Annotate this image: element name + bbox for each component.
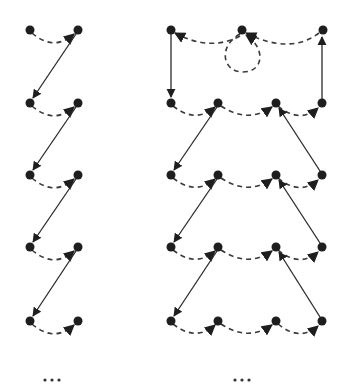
left-ellipsis [43,378,60,381]
left-solid-edge-1 [33,34,76,98]
graph-diagram [0,0,347,391]
right-node [318,317,327,326]
left-node [74,26,83,35]
right-solid-diag-left-1 [174,107,217,170]
right-node [272,317,281,326]
left-node [74,171,83,180]
left-solid-edge-2 [33,107,76,170]
right-node [167,99,176,108]
left-node [26,26,35,35]
left-dashed-edge-row2 [32,106,74,116]
right-node [238,26,247,35]
right-row-3-dashed [173,178,318,188]
right-node [214,99,223,108]
right-node [214,171,223,180]
left-dashed-edge-row4 [32,250,74,260]
left-dashed-edge-row5 [32,324,74,334]
right-node [318,171,327,180]
right-solid-diag-right-2 [279,180,320,243]
right-row-2-dashed [173,106,318,116]
right-solid-diag-right-1 [279,108,320,171]
right-solid-diag-left-2 [174,179,217,242]
right-node [167,317,176,326]
left-solid-edge-3 [33,179,76,242]
left-graph [26,26,83,382]
right-node [272,243,281,252]
diagram-canvas [0,0,347,391]
right-node [318,99,327,108]
left-node [26,99,35,108]
right-node [214,243,223,252]
left-dashed-edge-row1 [32,33,74,43]
left-node [26,171,35,180]
right-node [318,243,327,252]
left-node [26,317,35,326]
right-node [272,171,281,180]
right-node [272,99,281,108]
right-solid-diag-right-3 [279,252,320,317]
left-node [74,243,83,252]
right-ellipsis [233,378,250,381]
left-node [74,317,83,326]
right-node [214,317,223,326]
right-row-4-dashed [173,250,318,260]
right-top-dashed-to-middle [246,33,319,44]
right-graph [167,26,328,382]
right-node [167,243,176,252]
left-node [26,243,35,252]
right-node [319,26,328,35]
left-dashed-edge-row3 [32,178,74,188]
left-node [74,99,83,108]
right-solid-diag-left-3 [174,251,217,316]
left-solid-edge-4 [33,251,76,316]
right-node [167,171,176,180]
right-node [167,26,176,35]
right-row-5-dashed [173,324,318,334]
